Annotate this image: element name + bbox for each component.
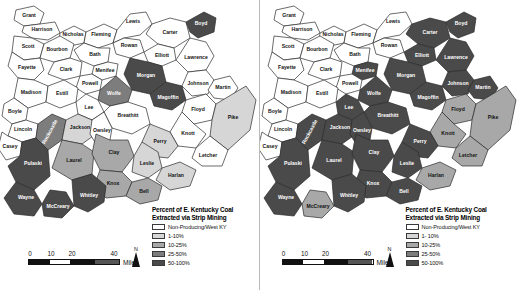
county-label-bourbon: Bourbon [46, 46, 67, 52]
county-label-bourbon: Bourbon [306, 46, 327, 52]
county-label-morgan: Morgan [396, 72, 414, 78]
scalebar-tick-3: 40 [364, 250, 371, 257]
map-panel-left: GrantHarrisonNicholasFlemingLewisCarterB… [0, 0, 259, 290]
county-label-rowan: Rowan [380, 42, 397, 48]
legend-item: Non-Producing/West KY [152, 223, 233, 231]
county-label-knox: Knox [107, 180, 120, 186]
legend-item-label: 10-25% [422, 242, 441, 248]
legend-item: 50-100% [152, 259, 233, 267]
county-label-carter: Carter [162, 29, 177, 35]
county-label-casey: Casey [262, 143, 277, 149]
legend-swatch [152, 251, 165, 257]
legend-swatch [406, 224, 419, 230]
county-label-clark: Clark [60, 66, 73, 72]
county-label-owsley: Owsley [93, 127, 111, 133]
legend-item: 1- 10% [406, 232, 487, 240]
county-label-pike: Pike [487, 114, 498, 120]
county-label-harrison: Harrison [32, 26, 53, 32]
county-label-madison: Madison [280, 89, 301, 95]
county-label-casey: Casey [2, 143, 17, 149]
legend-swatch [152, 233, 165, 239]
county-label-letcher: Letcher [458, 152, 476, 158]
legend-item-label: 50-100% [422, 260, 444, 266]
county-label-boyle: Boyle [268, 108, 282, 114]
county-label-johnson: Johnson [187, 80, 208, 86]
county-label-bath: Bath [89, 51, 100, 57]
scalebar-tick-labels: 0 10 20 40 [28, 250, 120, 259]
county-label-elliott: Elliott [155, 52, 169, 58]
legend-item-label: Non-Producing/West KY [168, 224, 226, 230]
county-label-letcher: Letcher [199, 152, 217, 158]
county-label-pike: Pike [228, 114, 239, 120]
county-label-perry: Perry [413, 138, 426, 144]
legend-swatch [406, 233, 419, 239]
county-label-nicholas: Nicholas [322, 31, 343, 37]
north-arrow-right: N [382, 246, 398, 268]
county-label-magoffin: Magoffin [417, 94, 438, 100]
county-label-fayette: Fayette [18, 64, 36, 70]
county-label-elliott: Elliott [414, 52, 428, 58]
county-label-lewis: Lewis [385, 18, 399, 24]
county-label-laurel: Laurel [326, 157, 342, 163]
legend-item-label: 25-50% [422, 251, 441, 257]
county-label-powell: Powell [341, 80, 358, 86]
legend-class-list: Non-Producing/West KY1-10%10-25%25-50%50… [152, 223, 233, 267]
county-label-scott: Scott [281, 43, 294, 49]
county-label-menifee: Menifee [96, 67, 115, 73]
county-label-boyle: Boyle [8, 108, 22, 114]
map-panel-right: GrantHarrisonNicholasFlemingLewisCarterB… [259, 0, 519, 290]
county-label-fleming: Fleming [351, 31, 371, 37]
county-lewis [373, 12, 412, 43]
county-label-estill: Estill [56, 90, 69, 96]
county-label-madison: Madison [21, 89, 42, 95]
county-label-lawrence: Lawrence [444, 54, 468, 60]
legend-item: 50-100% [406, 259, 487, 267]
county-label-nicholas: Nicholas [62, 31, 83, 37]
county-label-lincoln: Lincoln [273, 126, 291, 132]
county-label-laurel: Laurel [66, 157, 82, 163]
county-label-grant: Grant [282, 12, 296, 18]
legend-title-line2: Extracted via Strip Mining [152, 214, 233, 222]
county-label-martin: Martin [215, 84, 230, 90]
legend-swatch [406, 260, 419, 266]
map-figure: GrantHarrisonNicholasFlemingLewisCarterB… [0, 0, 519, 290]
legend-item: 1-10% [152, 232, 233, 240]
county-label-boyd: Boyd [195, 20, 208, 26]
county-label-powell: Powell [82, 80, 99, 86]
county-label-lee: Lee [85, 104, 94, 110]
county-label-pulaski: Pulaski [24, 160, 42, 166]
county-label-bell: Bell [399, 188, 409, 194]
county-label-jackson: Jackson [70, 124, 90, 130]
scalebar-tick-labels: 0 10 20 40 [282, 250, 374, 259]
county-label-harlan: Harlan [428, 172, 444, 178]
scalebar-tick-0: 0 [282, 250, 286, 257]
county-label-rowan: Rowan [121, 42, 138, 48]
county-label-bell: Bell [139, 188, 149, 194]
legend-class-list: Non-Producing/West KY1- 10%10-25%25-50%5… [406, 223, 487, 267]
county-label-perry: Perry [153, 138, 166, 144]
county-label-estill: Estill [315, 90, 328, 96]
north-arrow-icon [382, 252, 398, 268]
county-label-johnson: Johnson [447, 80, 468, 86]
legend-swatch [406, 251, 419, 257]
county-label-wolfe: Wolfe [107, 90, 121, 96]
county-label-knott: Knott [441, 130, 455, 136]
county-label-mccreary: McCreary [46, 203, 69, 209]
legend-left: Percent of E. Kentucky Coal Extracted vi… [152, 206, 233, 267]
county-label-scott: Scott [22, 43, 35, 49]
legend-title-line1: Percent of E. Kentucky Coal [406, 206, 487, 214]
county-label-mccreary: McCreary [306, 203, 329, 209]
county-label-leslie: Leslie [399, 160, 414, 166]
legend-item: Non-Producing/West KY [406, 223, 487, 231]
county-label-knott: Knott [181, 130, 195, 136]
county-label-breathitt: Breathitt [377, 112, 398, 118]
county-label-wolfe: Wolfe [367, 90, 381, 96]
legend-right: Percent of E. Kentucky Coal Extracted vi… [406, 206, 487, 267]
county-label-harlan: Harlan [168, 172, 184, 178]
legend-item: 25-50% [406, 250, 487, 258]
county-label-lawrence: Lawrence [184, 54, 208, 60]
legend-item-label: 25-50% [168, 251, 187, 257]
county-label-martin: Martin [475, 84, 490, 90]
legend-swatch [152, 260, 165, 266]
legend-item-label: 1-10% [168, 233, 184, 239]
